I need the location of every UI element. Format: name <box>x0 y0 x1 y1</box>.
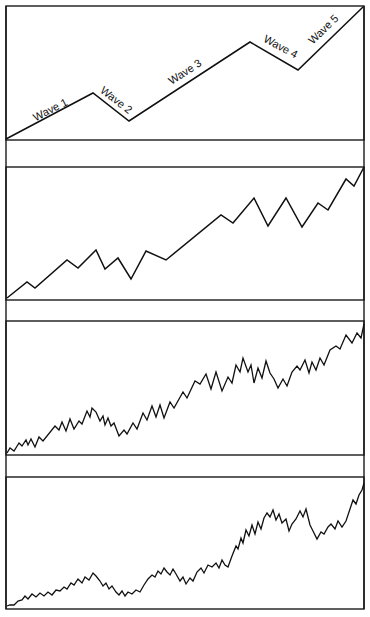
wave-label-4: Wave 4 <box>262 33 300 61</box>
panel-4 <box>6 477 364 609</box>
panel-3-wave-line <box>7 324 364 453</box>
panel-3 <box>6 321 364 455</box>
panel-1: Wave 1Wave 2Wave 3Wave 4Wave 5 <box>6 6 364 140</box>
wave-label-3: Wave 3 <box>166 57 203 87</box>
panel-2-wave-line <box>7 167 364 298</box>
panel-4-frame <box>6 477 364 609</box>
panel-3-frame <box>6 321 364 455</box>
elliott-wave-figure: Wave 1Wave 2Wave 3Wave 4Wave 5 <box>0 0 370 617</box>
panel-4-wave-line <box>7 483 364 606</box>
panel-2 <box>6 167 364 300</box>
wave-label-1: Wave 1 <box>31 96 69 123</box>
panel-2-frame <box>6 167 364 300</box>
wave-label-5: Wave 5 <box>306 12 341 46</box>
